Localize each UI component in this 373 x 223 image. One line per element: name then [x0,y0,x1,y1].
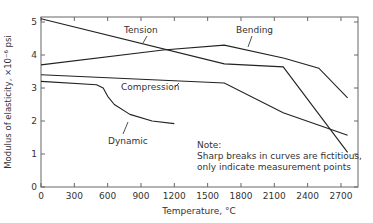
tension-arrow [143,36,147,43]
bending-arrow [248,36,252,47]
tension-label: Tension [123,25,158,35]
y-tick-label: 1 [31,149,37,159]
series-lines [41,19,348,153]
y-axis-label: Modulus of elasticity, ×10⁻⁶ psi [3,35,13,169]
note-annotation: Note: Sharp breaks in curves are fictiti… [197,140,362,173]
dynamic-arrow [123,122,128,134]
x-axis-label: Temperature, °C [161,206,236,216]
x-tick-label: 600 [99,191,116,201]
x-tick-label: 1500 [196,191,219,201]
chart: 0300600900120015001800210024002700012345… [0,0,373,223]
dynamic-label: Dynamic [108,136,148,146]
note-line-2: only indicate measurement points [197,162,362,173]
note-title: Note: [197,140,362,151]
series-tension [41,19,348,153]
compression-label: Compression [121,82,179,92]
x-tick-label: 0 [38,191,44,201]
series-bending [41,45,348,98]
y-tick-label: 5 [31,17,37,27]
x-tick-label: 300 [66,191,83,201]
x-tick-label: 2100 [263,191,286,201]
axis-tick-labels: 0300600900120015001800210024002700012345 [31,17,352,201]
x-tick-label: 1200 [163,191,186,201]
y-tick-label: 2 [31,116,37,126]
y-tick-label: 4 [31,50,37,60]
bending-label: Bending [236,25,273,35]
x-tick-label: 1800 [230,191,253,201]
x-tick-label: 2700 [330,191,353,201]
x-tick-label: 900 [132,191,149,201]
y-tick-label: 3 [31,83,37,93]
note-line-1: Sharp breaks in curves are fictitious, [197,151,362,162]
x-tick-label: 2400 [296,191,319,201]
y-tick-label: 0 [31,182,37,192]
